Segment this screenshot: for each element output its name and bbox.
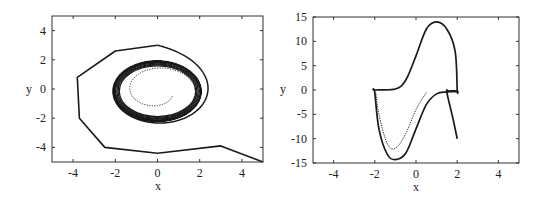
x-tick-label: -4 <box>68 166 78 180</box>
left-y-axis-label: y <box>26 82 32 96</box>
y-tick-label: -15 <box>291 156 307 170</box>
limit-cycle <box>119 66 195 117</box>
right-plot-curves <box>373 22 458 160</box>
x-tick-label: -2 <box>370 167 380 181</box>
y-tick-label: 2 <box>40 53 46 67</box>
y-tick-label: 0 <box>40 82 46 96</box>
right-plot-frame <box>313 17 519 163</box>
x-tick-label: 4 <box>495 167 501 181</box>
y-tick-label: -5 <box>297 107 307 121</box>
left-plot-curves <box>77 45 263 162</box>
right-y-axis-label: y <box>280 82 286 96</box>
x-tick-label: -2 <box>110 166 120 180</box>
y-tick-label: -4 <box>36 140 46 154</box>
y-tick-label: 4 <box>40 24 46 38</box>
x-tick-label: 2 <box>197 166 203 180</box>
y-tick-label: 5 <box>301 59 307 73</box>
limit-cycle <box>117 64 198 118</box>
y-tick-label: -2 <box>36 111 46 125</box>
left-ticks: -4-2024-4-2024 <box>36 16 263 180</box>
right-panel: -4-2024-15-10-5051015 x y <box>280 10 519 194</box>
x-tick-label: 4 <box>239 166 245 180</box>
limit-cycle <box>116 63 200 119</box>
left-panel: -4-2024-4-2024 x y <box>26 16 263 193</box>
left-x-axis-label: x <box>155 179 161 193</box>
right-x-axis-label: x <box>413 180 419 194</box>
x-tick-label: 0 <box>155 166 161 180</box>
inner-dotted-trajectory <box>114 61 201 121</box>
x-tick-label: 2 <box>454 167 460 181</box>
limit-cycle <box>114 62 201 120</box>
x-tick-label: 0 <box>413 167 419 181</box>
y-tick-label: 10 <box>295 34 307 48</box>
x-tick-label: -4 <box>329 167 339 181</box>
left-plot-frame <box>52 16 263 162</box>
figure: -4-2024-4-2024 x y -4-2024-15-10-5051015… <box>0 0 548 198</box>
y-tick-label: 0 <box>301 83 307 97</box>
y-tick-label: -10 <box>291 132 307 146</box>
y-tick-label: 15 <box>295 10 307 24</box>
